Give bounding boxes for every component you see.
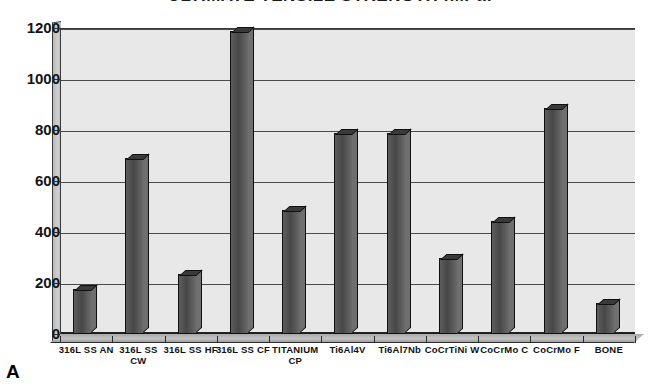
bar-side-face [300, 206, 306, 333]
bar-side-face [143, 154, 149, 333]
bar[interactable] [125, 158, 144, 334]
x-axis-tick-mark [374, 336, 375, 343]
bar[interactable] [491, 221, 510, 334]
bar[interactable] [387, 133, 406, 334]
bar[interactable] [282, 210, 301, 334]
bar[interactable] [596, 303, 615, 334]
bar-side-face [457, 253, 463, 333]
y-axis-tick-mark [52, 28, 60, 29]
y-axis-tick-mark [52, 334, 60, 335]
panel-letter: A [6, 361, 20, 383]
x-axis: 316L SS AN316L SSCW316L SS HF316L SS CFT… [60, 336, 644, 388]
x-axis-tick-mark [530, 336, 531, 343]
x-axis-tick-mark [217, 336, 218, 343]
bar-side-face [562, 104, 568, 333]
x-axis-tick-mark [635, 336, 636, 343]
figure-panel: ULTIMATE TENSILE STRENGTH (MPa) 02004006… [0, 0, 660, 390]
x-axis-tick-mark [269, 336, 270, 343]
bar[interactable] [334, 133, 353, 334]
bar-side-face [509, 216, 515, 333]
x-axis-tick-label: BONE [577, 344, 641, 355]
bar-side-face [352, 128, 358, 333]
x-axis-tick-label-line2: CP [263, 355, 327, 366]
x-axis-tick-mark [478, 336, 479, 343]
x-axis-tick-mark [426, 336, 427, 343]
bar[interactable] [178, 274, 197, 334]
y-axis-tick-mark [52, 79, 60, 80]
bar-side-face [91, 285, 97, 333]
chart-title: ULTIMATE TENSILE STRENGTH (MPa) [0, 0, 660, 1]
y-axis-tick-mark [52, 232, 60, 233]
x-axis-tick-mark [583, 336, 584, 343]
y-axis-tick-mark [52, 181, 60, 182]
bar[interactable] [439, 258, 458, 335]
bar-side-face [196, 270, 202, 333]
x-axis-tick-mark [165, 336, 166, 343]
bar[interactable] [230, 31, 249, 334]
x-axis-tick-mark [321, 336, 322, 343]
x-axis-tick-mark [112, 336, 113, 343]
bar-side-face [405, 128, 411, 333]
y-axis: 020040060080010001200 [0, 0, 60, 390]
x-axis-tick-label-line2: CW [106, 355, 170, 366]
bar-side-face [248, 26, 254, 333]
y-axis-tick-mark [52, 283, 60, 284]
y-axis-tick-mark [52, 130, 60, 131]
x-axis-tick-mark [60, 336, 61, 343]
bar[interactable] [73, 289, 92, 334]
bar[interactable] [544, 108, 563, 334]
bars-layer [60, 28, 635, 334]
